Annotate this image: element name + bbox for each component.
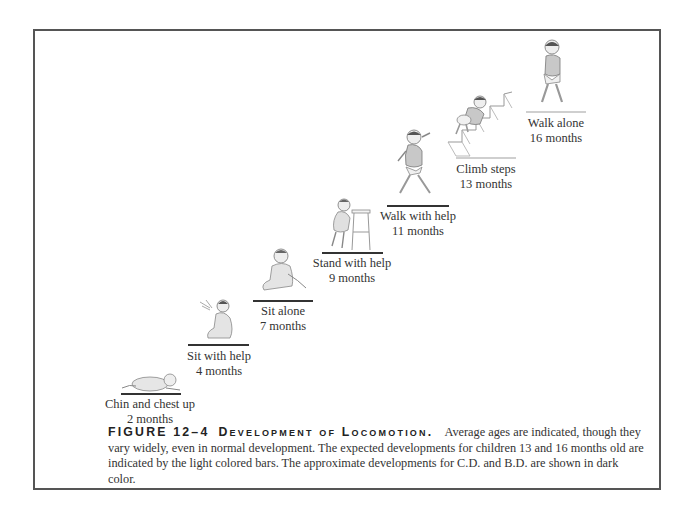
stage-bar-walk-help [387,205,449,207]
stage-name: Stand with help [302,256,402,271]
stage-bar-sit-help [188,344,249,346]
stage-bar-chin-chest [121,393,181,395]
stage-label-sit-help: Sit with help 4 months [169,349,269,379]
figure-number: FIGURE 12–4 [108,425,209,439]
stage-name: Chin and chest up [100,397,200,412]
figure-caption: FIGURE 12–4 Development of Locomotion. A… [108,425,648,487]
stage-age: 11 months [368,224,468,239]
stage-name: Sit with help [169,349,269,364]
stage-bar-stand-help [322,252,383,254]
stage-label-climb-steps: Climb steps 13 months [436,162,536,192]
stage-age: 7 months [233,319,333,334]
stage-label-chin-chest: Chin and chest up 2 months [100,397,200,427]
stage-name: Climb steps [436,162,536,177]
stage-age: 4 months [169,364,269,379]
figure-title: Development of Locomotion. [219,425,434,439]
stage-bar-sit-alone [253,300,313,302]
stage-bar-walk-alone [526,111,586,113]
stage-label-walk-alone: Walk alone 16 months [506,116,606,146]
stage-label-walk-help: Walk with help 11 months [368,209,468,239]
stage-age: 13 months [436,177,536,192]
stage-age: 9 months [302,271,402,286]
stage-bar-climb-steps [456,157,516,159]
stage-label-stand-help: Stand with help 9 months [302,256,402,286]
stage-name: Sit alone [233,304,333,319]
stage-age: 16 months [506,131,606,146]
stage-name: Walk with help [368,209,468,224]
stage-name: Walk alone [506,116,606,131]
toddler-walking-icon [536,38,572,108]
stage-label-sit-alone: Sit alone 7 months [233,304,333,334]
